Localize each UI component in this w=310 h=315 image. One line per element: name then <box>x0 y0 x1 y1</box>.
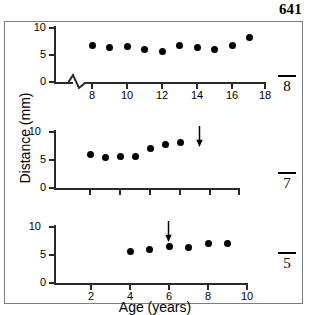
eruption-arrow-7 <box>195 126 204 148</box>
tooth-number-7: 7 <box>283 175 291 191</box>
y-tick-label-5-5: 5 <box>24 249 46 260</box>
data-point <box>102 154 109 161</box>
x-axis-line-8-right <box>84 82 266 84</box>
tooth-label-5: 5 <box>277 252 297 271</box>
data-point <box>159 48 166 55</box>
tooth-overbar-7 <box>278 172 296 174</box>
data-point <box>194 44 201 51</box>
data-point <box>224 240 231 247</box>
x-tick-7-6 <box>238 190 240 195</box>
data-point <box>146 246 153 253</box>
panel-tooth-5: 0 5 10 2 4 6 8 10 <box>5 203 304 303</box>
tooth-overbar-5 <box>278 252 296 254</box>
x-tick-label-8-16: 16 <box>222 90 242 101</box>
data-point <box>124 43 131 50</box>
data-point <box>87 151 94 158</box>
page-number: 641 <box>279 1 302 18</box>
x-tick-7-1 <box>89 190 91 195</box>
data-point <box>229 42 236 49</box>
data-point <box>106 44 113 51</box>
eruption-arrow-5 <box>164 221 173 243</box>
y-tick-5-5 <box>49 254 54 256</box>
panel-tooth-7: 0 5 10 7 <box>5 110 304 203</box>
data-point <box>176 42 183 49</box>
tooth-number-8: 8 <box>283 78 291 94</box>
x-axis-break-zigzag <box>68 72 90 90</box>
tooth-number-5: 5 <box>283 255 291 271</box>
y-tick-label-5-10: 10 <box>19 221 41 232</box>
data-point <box>211 46 218 53</box>
y-tick-7-10 <box>49 131 54 133</box>
y-tick-label-8-0: 0 <box>24 76 46 87</box>
y-tick-8-10 <box>49 27 54 29</box>
y-tick-8-5 <box>49 54 54 56</box>
data-point <box>166 243 173 250</box>
y-tick-label-7-10: 10 <box>19 126 41 137</box>
figure-box: Distance (mm) 0 5 10 <box>4 21 303 304</box>
panel-tooth-8: 0 5 10 8 10 12 14 16 18 8 <box>5 22 304 110</box>
y-tick-5-10 <box>49 226 54 228</box>
y-tick-label-8-10: 10 <box>24 22 46 33</box>
x-tick-7-4 <box>179 190 181 195</box>
x-axis-line-5 <box>54 283 248 285</box>
data-point <box>246 34 253 41</box>
x-tick-7-5 <box>209 190 211 195</box>
y-tick-label-8-5: 5 <box>24 49 46 60</box>
data-point <box>185 244 192 251</box>
tooth-label-8: 8 <box>277 75 297 94</box>
x-tick-label-8-8: 8 <box>82 90 102 101</box>
y-tick-label-5-0: 0 <box>24 277 46 288</box>
x-tick-label-8-12: 12 <box>152 90 172 101</box>
data-point <box>89 42 96 49</box>
x-tick-label-8-14: 14 <box>187 90 207 101</box>
y-tick-7-0 <box>49 187 54 189</box>
tooth-overbar-8 <box>278 75 296 77</box>
data-point <box>147 145 154 152</box>
data-point <box>205 240 212 247</box>
y-axis-line-7 <box>54 130 56 190</box>
x-tick-label-8-10: 10 <box>117 90 137 101</box>
tooth-label-7: 7 <box>277 172 297 191</box>
x-tick-7-3 <box>149 190 151 195</box>
x-tick-7-2 <box>119 190 121 195</box>
x-tick-label-8-18: 18 <box>255 90 275 101</box>
data-point <box>177 139 184 146</box>
data-point <box>132 153 139 160</box>
data-point <box>162 141 169 148</box>
plot-area-7: 0 5 10 <box>5 110 304 203</box>
x-tick-label-5-10: 10 <box>237 291 257 302</box>
y-tick-label-7-5: 5 <box>24 154 46 165</box>
y-tick-7-5 <box>49 159 54 161</box>
y-tick-5-0 <box>49 282 54 284</box>
data-point <box>127 248 134 255</box>
data-point <box>141 46 148 53</box>
plot-area-8: 0 5 10 8 10 12 14 16 18 <box>5 22 304 110</box>
y-tick-8-0 <box>49 81 54 83</box>
plot-area-5: 0 5 10 2 4 6 8 10 <box>5 203 304 303</box>
x-axis-line-7 <box>54 188 240 190</box>
y-tick-label-7-0: 0 <box>24 182 46 193</box>
y-axis-line-8 <box>54 26 56 84</box>
data-point <box>117 153 124 160</box>
y-axis-line-5 <box>54 225 56 285</box>
x-axis-title: Age (years) <box>95 299 215 315</box>
